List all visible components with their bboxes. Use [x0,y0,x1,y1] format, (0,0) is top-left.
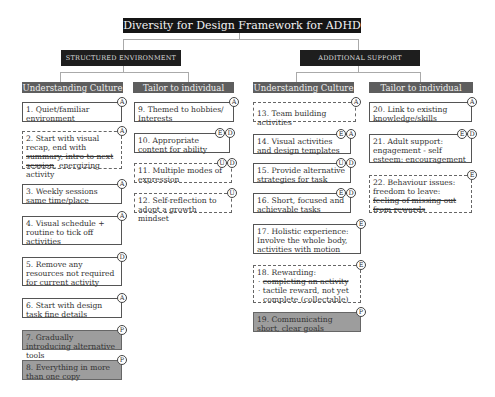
badge-e-icon: E [467,170,477,180]
connector [296,72,297,82]
item-2: 2. Start with visual recap, end with sum… [22,131,122,169]
connector [123,39,358,40]
item-text: 18. Rewarding: [257,268,357,277]
badge-u-icon: U [227,188,237,198]
badge-d-icon: D [346,158,356,168]
item-text: 7. Gradually introducing alternative too… [26,333,115,360]
item-text: 16. Short, focused and achievable tasks [257,196,344,214]
badge-u-icon: U [336,158,346,168]
item-text: 20. Link to existing knowledge/skills [373,105,447,123]
badge-p-icon: P [117,355,127,365]
item-16: 16. Short, focused and achievable tasks … [253,193,351,213]
item-14: 14. Visual activities and design templat… [253,134,351,154]
item-6: 6. Start with design task fine details A [22,298,122,318]
item-text: 19. Communicating short, clear goals [257,315,333,333]
badge-a-icon: A [467,97,477,107]
connector [188,72,189,82]
item-text: 14. Visual activities and design templat… [257,137,340,155]
item-text: 6. Start with design task fine details [26,301,102,319]
badge-e-icon: E [215,128,225,138]
item-text: 2. Start with visual recap, end with [26,134,99,152]
item-text: 3. Weekly sessions same time/place [26,187,98,205]
item-text: 8. Everything in more than one copy [26,363,110,381]
item-text: 4. Visual schedule + routine to tick off… [26,219,105,246]
item-1: 1. Quiet/familiar environment A [22,102,122,122]
badge-u-icon: U [217,158,227,168]
badge-d-icon: D [225,128,235,138]
item-9: 9. Themed to hobbies/ Interests A [134,102,234,122]
connector [123,39,124,50]
subcategory-tailor-individual-1: Tailor to individual [133,82,234,93]
badge-e-icon: E [457,129,467,139]
badge-d-icon: D [346,188,356,198]
item-13: 13. Team building activities A [253,102,356,122]
badge-a-icon: A [117,211,127,221]
item-18: 18. Rewarding: · completing an activity … [253,265,361,303]
item-4: 4. Visual schedule + routine to tick off… [22,216,122,245]
bullet-item: · completing an activity [257,277,357,286]
badge-d-icon: D [227,158,237,168]
badge-a-icon: A [117,179,127,189]
item-text: 17. Holistic experience: Involve the who… [257,227,348,254]
item-10: 10. Appropriate content for ability ED [134,133,230,153]
item-text: 11. Multiple modes of expression [138,166,222,184]
badge-e-icon: E [336,129,346,139]
item-text: 22. Behaviour issues: freedom to leave: [373,178,455,196]
badge-e-icon: E [356,219,366,229]
badge-d-icon: D [117,252,127,262]
badge-p-icon: P [356,307,366,317]
item-15: 15. Provide alternative strategies for t… [253,163,351,183]
item-text: tactile reward, not yet complete (collec… [263,286,349,304]
badge-p-icon: P [117,325,127,335]
framework-diagram: Diversity for Design Framework for ADHD … [0,0,495,397]
item-7: 7. Gradually introducing alternative too… [22,330,122,350]
item-17: 17. Holistic experience: Involve the who… [253,224,361,254]
connector [60,72,61,82]
subcategory-understanding-culture-2: Understanding Culture [253,82,354,93]
category-structured-environment: STRUCTURED ENVIRONMENT [61,50,181,66]
badge-a-icon: A [346,129,356,139]
struck-text: completing an activity [263,277,349,286]
item-11: 11. Multiple modes of expression UD [134,163,232,183]
badge-a-icon: A [351,97,361,107]
connector [420,72,421,82]
item-12: 12. Self-reflection to adopt a growth mi… [134,193,232,213]
connector [296,72,421,73]
item-text: 10. Appropriate content for ability [138,136,207,154]
badge-a-icon: A [117,97,127,107]
item-19: 19. Communicating short, clear goals P [253,312,361,332]
subcategory-understanding-culture-1: Understanding Culture [22,82,123,93]
item-20: 20. Link to existing knowledge/skills A [369,102,472,122]
connector [358,39,359,50]
badge-d-icon: D [467,129,477,139]
badge-e-icon: E [356,260,366,270]
item-text: 1. Quiet/familiar environment [26,105,89,123]
item-8: 8. Everything in more than one copy P [22,360,122,380]
item-5: 5. Remove any resources not required for… [22,257,122,286]
category-additional-support: ADDITIONAL SUPPORT [300,50,420,66]
badge-a-icon: A [117,126,127,136]
diagram-title: Diversity for Design Framework for ADHD [123,18,361,33]
item-22: 22. Behaviour issues: freedom to leave: … [369,175,472,213]
item-text: 5. Remove any resources not required for… [26,260,114,287]
item-text: 15. Provide alternative strategies for t… [257,166,345,184]
item-21: 21. Adult support: engagement - self est… [369,134,472,163]
item-text: 12. Self-reflection to adopt a growth mi… [138,196,217,223]
item-text: 13. Team building activities [257,109,352,127]
badge-a-icon: A [117,293,127,303]
connector [60,72,189,73]
item-3: 3. Weekly sessions same time/place A [22,184,122,204]
item-text: 21. Adult support: engagement - self est… [373,137,466,164]
subcategory-tailor-individual-2: Tailor to individual [369,82,473,93]
badge-e-icon: E [336,188,346,198]
connector [239,32,240,39]
struck-text: feeling of missing out from rewards [373,196,456,214]
item-text: 9. Themed to hobbies/ Interests [138,105,224,123]
badge-a-icon: A [229,97,239,107]
bullet-item: · tactile reward, not yet complete (coll… [257,286,357,304]
